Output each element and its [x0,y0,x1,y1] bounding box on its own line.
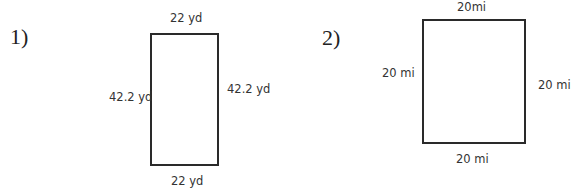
rectangle-figure [150,33,219,166]
side-label-right: 42.2 yd [227,84,270,96]
side-label-left: 20 mi [382,68,415,80]
side-label-right: 20 mi [538,80,571,92]
side-label-bottom: 22 yd [171,176,203,188]
square-figure [422,19,526,144]
problem-number: 2) [322,27,340,49]
side-label-top: 20mi [457,2,486,14]
side-label-bottom: 20 mi [456,154,489,166]
side-label-left: 42.2 yd [109,92,152,104]
problem-number: 1) [10,26,28,48]
side-label-top: 22 yd [170,13,202,25]
